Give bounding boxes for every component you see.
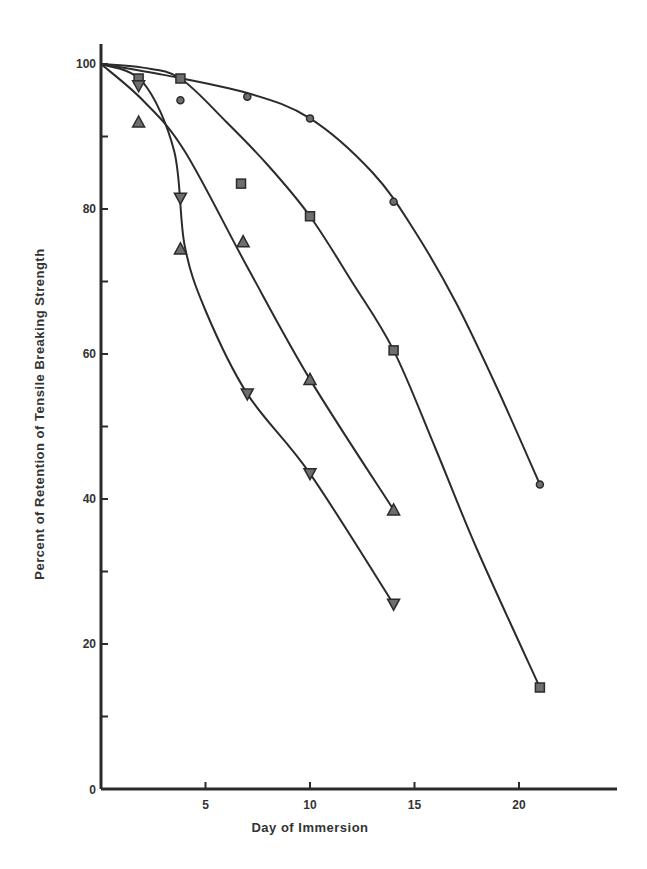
- marker-square: [237, 179, 246, 188]
- marker-circle: [307, 115, 314, 122]
- y-tick-label: 60: [83, 347, 97, 361]
- y-axis-title: Percent of Retention of Tensile Breaking…: [32, 248, 47, 579]
- marker-triangle-up: [133, 116, 145, 127]
- marker-triangle-down: [174, 193, 186, 204]
- marker-square: [176, 74, 185, 83]
- x-axis-title: Day of Immersion: [251, 820, 368, 835]
- marker-circle: [244, 93, 251, 100]
- marker-circle: [390, 198, 397, 205]
- y-tick-label: 20: [83, 637, 97, 651]
- marker-triangle-up: [237, 236, 249, 247]
- marker-circle: [536, 481, 543, 488]
- axes: 2040608010005101520: [76, 44, 617, 812]
- marker-square: [535, 683, 544, 692]
- marker-triangle-up: [304, 373, 316, 384]
- labels: Day of Immersion Percent of Retention of…: [32, 248, 369, 835]
- curve-up-triangles: [101, 64, 394, 510]
- origin-label: 0: [89, 783, 96, 797]
- x-tick-label: 5: [202, 798, 209, 812]
- x-tick-label: 10: [303, 798, 317, 812]
- y-tick-label: 100: [76, 57, 96, 71]
- curve-squares: [101, 64, 540, 688]
- marker-triangle-down: [241, 389, 253, 400]
- marker-square: [389, 346, 398, 355]
- marker-triangle-up: [388, 504, 400, 515]
- y-tick-label: 40: [83, 492, 97, 506]
- curve-down-triangles: [101, 64, 394, 604]
- x-tick-label: 20: [512, 798, 526, 812]
- x-tick-label: 15: [408, 798, 422, 812]
- y-tick-label: 80: [83, 202, 97, 216]
- chart-canvas: 2040608010005101520 Day of Immersion Per…: [0, 0, 647, 869]
- marker-triangle-down: [133, 81, 145, 92]
- marker-triangle-down: [388, 599, 400, 610]
- marker-square: [306, 212, 315, 221]
- marker-circle: [177, 97, 184, 104]
- curves: [101, 64, 540, 688]
